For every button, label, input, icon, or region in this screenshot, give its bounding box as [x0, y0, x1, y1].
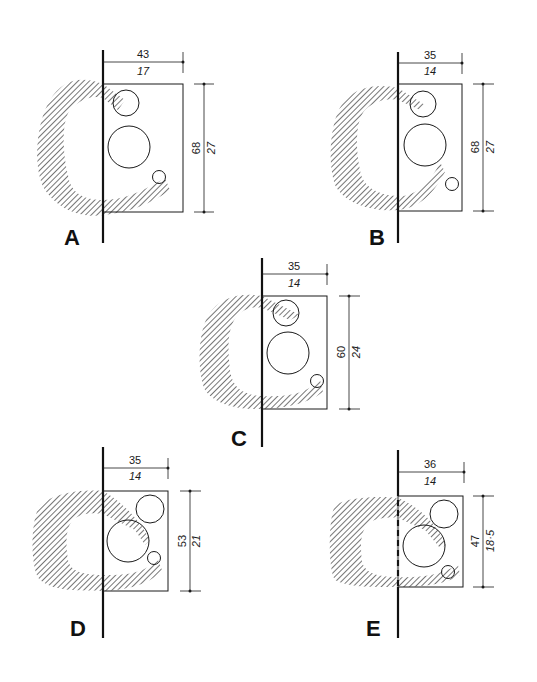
- dim-dot: [203, 211, 206, 214]
- burner-tiny: [446, 178, 459, 191]
- burner-small-top: [430, 500, 458, 528]
- panel-b: 35 14 68 27 B: [331, 49, 496, 250]
- dim-dot: [463, 471, 466, 474]
- diagram-canvas: 43 17 68 27 A 35 14 68 27 B: [0, 0, 537, 682]
- width-cm: 35: [129, 454, 141, 466]
- dim-dot: [203, 83, 206, 86]
- panel-label: E: [366, 616, 381, 641]
- width-cm: 36: [424, 458, 436, 470]
- panel-label: D: [70, 616, 86, 641]
- panel-c: 35 14 60 24 C: [200, 258, 362, 451]
- depth-cm: 47: [469, 535, 481, 547]
- reach-zone-hatch: [33, 491, 163, 591]
- width-cm: 35: [424, 49, 436, 61]
- depth-in: 24: [350, 346, 362, 359]
- dim-dot: [348, 295, 351, 298]
- dim-dot: [182, 61, 185, 64]
- depth-cm: 53: [176, 535, 188, 547]
- width-in: 14: [129, 470, 141, 482]
- depth-in: 18·5: [484, 529, 496, 552]
- dim-dot: [326, 273, 329, 276]
- depth-cm: 68: [469, 141, 481, 153]
- width-in: 14: [288, 277, 300, 289]
- panel-a: 43 17 68 27 A: [37, 48, 217, 250]
- dim-dot: [167, 467, 170, 470]
- panel-e: 36 14 47 18·5 E: [330, 450, 496, 641]
- dim-dot: [482, 495, 485, 498]
- burner-small-top: [136, 495, 164, 523]
- dim-dot: [482, 586, 485, 589]
- burner-large: [267, 332, 309, 374]
- burner-tiny: [148, 552, 161, 565]
- depth-in: 27: [484, 140, 496, 154]
- panel-label: B: [369, 225, 385, 250]
- dim-dot: [189, 590, 192, 593]
- dim-dot: [189, 490, 192, 493]
- depth-in: 27: [205, 141, 217, 155]
- width-cm: 35: [288, 260, 300, 272]
- dim-dot: [461, 62, 464, 65]
- panel-label: A: [64, 225, 80, 250]
- depth-cm: 60: [335, 346, 347, 358]
- width-in: 14: [424, 65, 436, 77]
- reach-zone-hatch: [331, 86, 445, 210]
- reach-zone-hatch: [330, 497, 460, 587]
- burner-large: [404, 124, 446, 166]
- panel-d: 35 14 53 21 D: [33, 447, 203, 641]
- panel-label: C: [231, 426, 247, 451]
- burner-large: [108, 126, 150, 168]
- dim-dot: [482, 210, 485, 213]
- width-in: 14: [424, 475, 436, 487]
- dim-dot: [348, 408, 351, 411]
- depth-cm: 68: [190, 142, 202, 154]
- dim-dot: [482, 83, 485, 86]
- width-cm: 43: [137, 48, 149, 60]
- width-in: 17: [137, 65, 150, 77]
- depth-in: 21: [190, 535, 202, 548]
